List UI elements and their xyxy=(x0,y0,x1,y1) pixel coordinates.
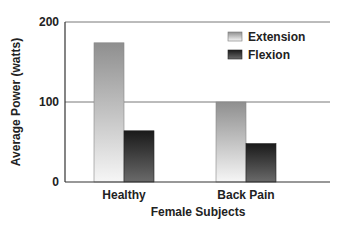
bar-chart: 0100200HealthyBack Pain Average Power (w… xyxy=(0,0,343,229)
y-axis-label: Average Power (watts) xyxy=(9,38,23,166)
legend-label-flexion: Flexion xyxy=(248,48,290,62)
y-tick-label: 200 xyxy=(39,15,59,29)
bar-flexion-back-pain xyxy=(246,144,276,182)
y-tick-label: 0 xyxy=(52,175,59,189)
bar-extension-back-pain xyxy=(216,102,246,182)
bar-flexion-healthy xyxy=(124,131,154,182)
legend-swatch-flexion xyxy=(228,50,242,59)
legend: Extension Flexion xyxy=(228,30,305,62)
legend-label-extension: Extension xyxy=(248,30,305,44)
legend-swatch-extension xyxy=(228,32,242,41)
y-tick-label: 100 xyxy=(39,95,59,109)
bar-extension-healthy xyxy=(94,43,124,182)
x-axis-label: Female Subjects xyxy=(151,205,246,219)
x-tick-label: Healthy xyxy=(102,188,146,202)
x-tick-label: Back Pain xyxy=(217,188,274,202)
